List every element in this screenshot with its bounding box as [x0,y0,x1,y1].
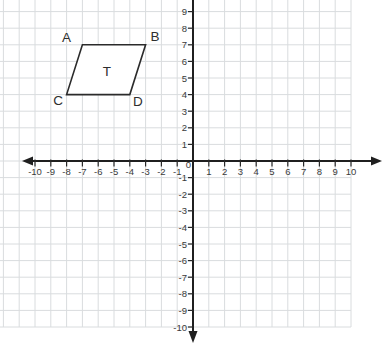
coordinate-plane: -10-9-8-7-6-5-4-3-2-11234567891098765432… [0,0,384,357]
x-tick-label: -3 [141,166,149,177]
x-tick-label: 1 [206,166,211,177]
y-axis-arrow-down [189,331,198,343]
x-tick-label: -9 [47,166,55,177]
x-tick-label: 3 [238,166,243,177]
y-tick-label: 1 [182,139,187,150]
y-tick-label: 4 [182,89,187,100]
vertex-label-B: B [151,29,160,44]
y-tick-label: -3 [179,205,187,216]
y-tick-label: 9 [182,6,187,17]
x-axis-arrow-right [371,157,382,166]
x-axis-arrow-left [22,157,33,166]
origin-label: 0 [186,159,191,170]
y-tick-label: -5 [179,239,187,250]
x-tick-label: -4 [126,166,134,177]
y-tick-label: -10 [173,322,187,333]
y-tick-label: -6 [179,255,187,266]
x-tick-label: -10 [28,166,42,177]
x-tick-label: 8 [317,166,322,177]
y-tick-label: 7 [182,39,187,50]
vertex-label-C: C [53,93,63,108]
y-tick-label: 6 [182,56,187,67]
y-tick-label: 8 [182,23,187,34]
x-tick-label: 10 [346,166,357,177]
x-tick-label: 5 [269,166,274,177]
x-tick-label: -6 [94,166,102,177]
y-tick-label: 5 [182,73,187,84]
y-tick-label: 2 [182,122,187,133]
shape-label-T: T [103,64,111,79]
x-tick-label: 2 [222,166,227,177]
y-tick-label: 3 [182,106,187,117]
y-tick-label: -2 [179,189,187,200]
vertex-label-A: A [62,30,71,45]
y-tick-label: -7 [179,272,187,283]
x-tick-label: 4 [254,166,259,177]
x-tick-label: -2 [157,166,165,177]
y-tick-label: -1 [179,172,187,183]
coordinate-grid-svg: -10-9-8-7-6-5-4-3-2-11234567891098765432… [0,0,384,357]
x-tick-label: -8 [62,166,70,177]
x-tick-label: 6 [285,166,290,177]
x-tick-label: 9 [333,166,338,177]
x-tick-label: -5 [110,166,118,177]
y-tick-label: -4 [179,222,187,233]
x-tick-label: 7 [301,166,306,177]
x-tick-label: -7 [78,166,86,177]
y-tick-label: -8 [179,288,187,299]
y-tick-label: -9 [179,305,187,316]
vertex-label-D: D [133,94,143,109]
